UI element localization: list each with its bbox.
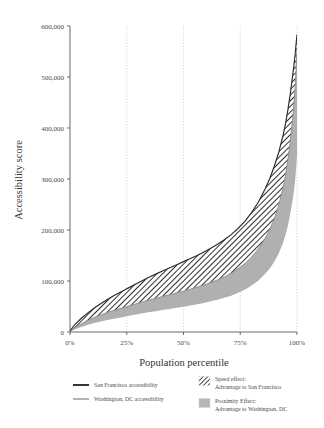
y-tick-label-400000: 400,000 bbox=[41, 125, 64, 133]
y-tick-label-500000: 500,000 bbox=[41, 74, 64, 82]
legend-swatch-hatch bbox=[199, 377, 210, 386]
legend-label-speed-effect-line1: Speed effect: bbox=[215, 376, 246, 382]
x-tick-label-0: 0% bbox=[65, 339, 75, 347]
y-axis-ticks: 0100,000200,000300,000400,000500,000600,… bbox=[41, 23, 70, 337]
legend-item-speed-effect: Speed effect: Advantage to San Francisco bbox=[199, 376, 281, 390]
legend-label-proximity-effect-line2: Advantage to Washington, DC bbox=[215, 406, 287, 412]
y-tick-label-0: 0 bbox=[61, 329, 65, 337]
x-tick-label-75: 75% bbox=[234, 339, 247, 347]
x-axis-title: Population percentile bbox=[139, 357, 229, 368]
y-tick-label-100000: 100,000 bbox=[41, 278, 64, 286]
accessibility-chart: 0100,000200,000300,000400,000500,000600,… bbox=[0, 0, 324, 428]
y-tick-label-200000: 200,000 bbox=[41, 227, 64, 235]
legend-label-san-francisco: San Francisco accessibility bbox=[94, 382, 158, 388]
x-tick-label-50: 50% bbox=[177, 339, 190, 347]
legend-swatch-solid-gray bbox=[199, 399, 210, 408]
legend-label-speed-effect-line2: Advantage to San Francisco bbox=[215, 384, 281, 390]
y-tick-label-600000: 600,000 bbox=[41, 23, 64, 31]
chart-canvas: 0100,000200,000300,000400,000500,000600,… bbox=[0, 0, 324, 428]
x-tick-label-100: 100% bbox=[289, 339, 306, 347]
y-axis-title: Accessibility score bbox=[13, 140, 24, 220]
legend-label-proximity-effect-line1: Proximity Effect: bbox=[215, 398, 256, 404]
y-tick-label-300000: 300,000 bbox=[41, 176, 64, 184]
x-tick-label-25: 25% bbox=[120, 339, 133, 347]
legend-label-washington-dc: Washington, DC accessibility bbox=[94, 396, 164, 402]
legend-item-washington-dc: Washington, DC accessibility bbox=[73, 396, 164, 402]
chart-legend: San Francisco accessibility Washington, … bbox=[73, 376, 287, 412]
legend-item-san-francisco: San Francisco accessibility bbox=[73, 382, 158, 388]
x-axis-ticks: 0%25%50%75%100% bbox=[65, 332, 305, 347]
legend-item-proximity-effect: Proximity Effect: Advantage to Washingto… bbox=[199, 398, 287, 412]
